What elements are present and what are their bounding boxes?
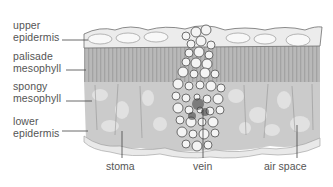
label-lower-epidermis: lower epidermis (13, 115, 59, 139)
label-vein: vein (193, 160, 212, 172)
label-stoma: stoma (106, 160, 135, 172)
label-spongy-mesophyll: spongy mesophyll (13, 80, 61, 104)
label-upper-epidermis: upper epidermis (13, 19, 59, 43)
label-air-space: air space (264, 160, 307, 172)
leaf-cross-section-diagram: upper epidermis palisade mesophyll spong… (0, 0, 333, 187)
label-palisade-mesophyll: palisade mesophyll (13, 50, 61, 74)
